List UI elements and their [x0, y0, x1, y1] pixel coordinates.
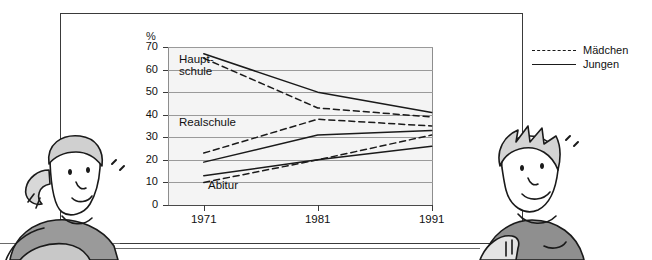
caption-hauptschule-line1: Haupt- [179, 53, 214, 65]
cartoon-girl-figure [4, 128, 136, 260]
caption-realschule: Realschule [179, 117, 236, 129]
series-line [204, 146, 432, 175]
series-lines [126, 30, 446, 222]
legend-maedchen[interactable]: Mädchen [532, 43, 628, 57]
solid-line-icon [532, 60, 576, 68]
series-line [204, 135, 432, 182]
caption-hauptschule: Haupt-schule [179, 54, 214, 77]
legend-label: Jungen [583, 58, 619, 70]
line-chart: % 010203040506070197119811991 Haupt-schu… [126, 30, 446, 222]
legend-jungen[interactable]: Jungen [532, 57, 628, 71]
dashed-line-icon [532, 46, 576, 54]
series-line [204, 58, 432, 117]
legend-label: Mädchen [583, 44, 628, 56]
caption-abitur: Abitur [208, 180, 238, 192]
series-line [204, 54, 432, 113]
baseline-rule-middle [110, 248, 480, 249]
series-line [204, 119, 432, 153]
chart-legend: MädchenJungen [532, 43, 628, 71]
cartoon-boy-figure [466, 116, 596, 260]
series-line [204, 131, 432, 163]
screenshot-root: % 010203040506070197119811991 Haupt-schu… [0, 0, 652, 260]
caption-hauptschule-line2: schule [179, 65, 212, 77]
